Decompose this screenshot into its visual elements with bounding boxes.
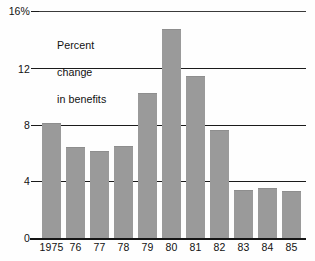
bar-82 [210, 130, 229, 238]
x-axis-label-77: 77 [87, 242, 112, 253]
bar-1975 [42, 123, 61, 238]
bar-77 [90, 151, 109, 238]
x-axis-label-80: 80 [159, 242, 184, 253]
bar-76 [66, 147, 85, 238]
bar-78 [114, 146, 133, 238]
x-axis-baseline [30, 238, 306, 240]
x-axis-label-82: 82 [207, 242, 232, 253]
bar-80 [162, 29, 181, 238]
x-axis-label-85: 85 [279, 242, 304, 253]
x-axis-label-79: 79 [135, 242, 160, 253]
bar-83 [234, 190, 253, 238]
chart-annotation: Percent change in benefits [57, 26, 106, 120]
bar-85 [282, 191, 301, 238]
bar-81 [186, 76, 205, 238]
y-axis-label-0: 0 [0, 233, 30, 244]
x-axis-label-76: 76 [63, 242, 88, 253]
x-axis-labels: 1975 76 77 78 79 80 81 82 83 84 85 [38, 242, 306, 260]
x-axis-label-84: 84 [255, 242, 280, 253]
x-axis-label-83: 83 [231, 242, 256, 253]
chart-annotation-line-3: in benefits [57, 93, 106, 106]
y-axis-label-4: 4 [0, 176, 30, 187]
y-axis-label-12: 12 [0, 64, 30, 75]
x-axis-label-78: 78 [111, 242, 136, 253]
y-axis-labels: 16% 12 8 4 0 [0, 0, 30, 261]
y-axis-label-16: 16% [0, 6, 30, 17]
y-axis-label-8: 8 [0, 120, 30, 131]
bar-79 [138, 93, 157, 238]
bar-84 [258, 188, 277, 238]
chart-annotation-line-1: Percent [57, 39, 106, 52]
x-axis-label-81: 81 [183, 242, 208, 253]
bar-chart-figure: 16% 12 8 4 0 1975 76 77 78 79 80 81 82 8… [0, 0, 315, 261]
chart-annotation-line-2: change [57, 66, 106, 79]
